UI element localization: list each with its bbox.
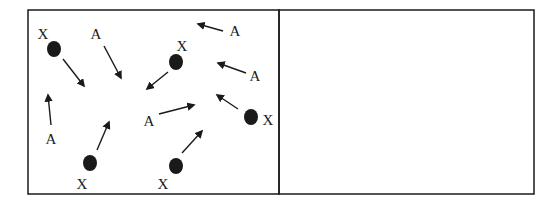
- x-particle-dot: [244, 109, 258, 125]
- a-particle-label: A: [144, 113, 155, 129]
- x-particle-dot: [83, 155, 97, 171]
- a-particle-arrow-icon: [159, 105, 194, 114]
- x-particle-arrow-icon: [182, 131, 202, 153]
- particle-diagram: XXXXXAAAAA: [0, 0, 558, 205]
- a-particle-arrow-icon: [198, 24, 223, 31]
- x-particle-label: X: [38, 26, 49, 42]
- panel-frames: [28, 10, 534, 194]
- x-particle-dot: [169, 158, 183, 174]
- a-particle-arrow-icon: [104, 46, 121, 78]
- x-particle-dot: [169, 54, 183, 70]
- a-particle-label: A: [230, 23, 241, 39]
- x-particle-label: X: [158, 176, 169, 192]
- motion-arrows: [48, 24, 246, 153]
- x-particle-arrow-icon: [217, 95, 238, 109]
- a-particle-label: A: [46, 131, 57, 147]
- a-particle-arrow-icon: [48, 95, 51, 125]
- panel-left: [28, 10, 279, 194]
- x-particle-label: X: [77, 176, 88, 192]
- x-particle-arrow-icon: [97, 122, 109, 150]
- particle-labels: XXXXXAAAAA: [38, 23, 274, 192]
- x-particle-label: X: [177, 38, 188, 54]
- a-particle-label: A: [250, 68, 261, 84]
- x-particle-arrow-icon: [147, 72, 168, 89]
- panel-right: [279, 10, 534, 194]
- x-particle-arrow-icon: [63, 59, 84, 86]
- a-particle-arrow-icon: [218, 63, 246, 73]
- a-particle-label: A: [91, 26, 102, 42]
- x-particle-label: X: [263, 112, 274, 128]
- x-particle-dot: [47, 41, 61, 57]
- x-particles: [47, 41, 258, 174]
